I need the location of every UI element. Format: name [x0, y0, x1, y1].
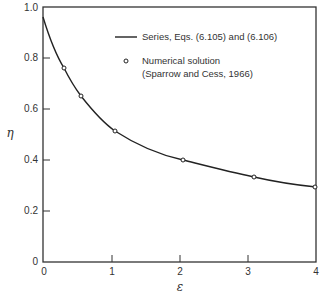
- series-curve: [43, 17, 316, 187]
- legend-line-label: Series, Eqs. (6.105) and (6.106): [142, 31, 277, 42]
- y-tick-label: 1.0: [24, 2, 38, 13]
- legend-marker-label: Numerical solution: [142, 55, 220, 66]
- x-tick-label: 4: [313, 266, 319, 277]
- plot-frame: [43, 7, 316, 262]
- y-tick-label: 0.6: [24, 103, 38, 114]
- legend-marker-swatch: [124, 59, 128, 63]
- y-axis: [43, 58, 50, 211]
- x-tick-label: 3: [245, 266, 251, 277]
- x-axis: [112, 255, 248, 262]
- y-tick-label: 0.8: [24, 52, 38, 63]
- y-axis-label: η: [6, 126, 14, 140]
- x-tick-label: 2: [177, 266, 183, 277]
- x-tick-label: 0: [41, 266, 47, 277]
- chart: 0 0.2 0.4 0.6 0.8 1.0 0 1 2 3 4 ε η Seri…: [0, 0, 322, 296]
- x-tick-label: 1: [109, 266, 115, 277]
- y-tick-label: 0.4: [24, 154, 38, 165]
- y-tick-label: 0.2: [24, 205, 38, 216]
- legend-marker-label-2: (Sparrow and Cess, 1966): [142, 68, 253, 79]
- x-axis-label: ε: [177, 280, 183, 294]
- numerical-points: [62, 66, 317, 189]
- y-tick-label: 0: [32, 256, 38, 267]
- legend: Series, Eqs. (6.105) and (6.106) Numeric…: [115, 31, 277, 79]
